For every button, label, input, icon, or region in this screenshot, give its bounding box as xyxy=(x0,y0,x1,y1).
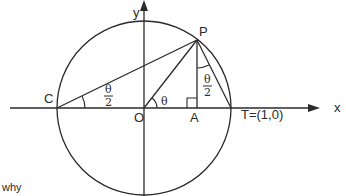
caption-fragment: why xyxy=(2,181,22,193)
point-label-A: A xyxy=(190,110,199,125)
point-label-O: O xyxy=(134,110,144,125)
y-axis-arrow-icon xyxy=(140,0,148,11)
segment-PT xyxy=(197,40,231,108)
x-axis-label: x xyxy=(334,100,341,115)
point-label-P: P xyxy=(199,24,208,39)
right-angle-marker xyxy=(187,98,197,108)
x-axis-arrow-icon xyxy=(308,104,320,112)
angle-label-C-denominator: 2 xyxy=(105,96,112,109)
angle-label-P-denominator: 2 xyxy=(204,86,211,99)
angle-arc-C xyxy=(82,96,85,108)
unit-circle-diagram: y x C O A P T=(1,0) θ θ 2 θ 2 xyxy=(0,0,346,196)
segment-CP xyxy=(57,40,197,108)
angle-label-theta: θ xyxy=(161,95,168,108)
angle-arc-O xyxy=(152,98,157,108)
angle-label-C-numerator: θ xyxy=(105,83,112,96)
y-axis-label: y xyxy=(133,5,140,20)
point-label-C: C xyxy=(44,91,53,106)
point-label-T: T=(1,0) xyxy=(241,107,283,122)
angle-label-P-numerator: θ xyxy=(204,73,211,86)
angle-arc-P xyxy=(197,65,209,68)
